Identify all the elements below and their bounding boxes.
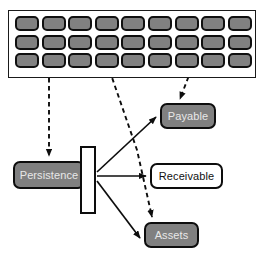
grid-cell[interactable]	[68, 35, 92, 50]
grid-cell[interactable]	[175, 53, 199, 68]
grid-cell[interactable]	[121, 35, 145, 50]
grid-cell[interactable]	[201, 35, 225, 50]
grid-cell[interactable]	[175, 35, 199, 50]
node-assets-label: Assets	[155, 229, 189, 241]
grid-cell[interactable]	[148, 16, 172, 31]
grid-cell[interactable]	[15, 35, 39, 50]
grid-cell[interactable]	[228, 53, 252, 68]
connector-gate-to-assets	[97, 181, 140, 238]
grid-cell[interactable]	[68, 53, 92, 68]
node-payable-label: Payable	[168, 110, 208, 122]
grid-cell[interactable]	[201, 53, 225, 68]
grid-cell[interactable]	[95, 53, 119, 68]
diagram-canvas: Persistence Payable Receivable Assets	[0, 0, 264, 261]
grid-cell[interactable]	[121, 16, 145, 31]
grid-cell[interactable]	[42, 35, 66, 50]
connector-gate-to-payable	[97, 117, 156, 172]
node-persistence-label: Persistence	[20, 169, 79, 181]
node-receivable-label: Receivable	[159, 170, 214, 182]
connector-grid-to-assets	[107, 63, 152, 217]
gate-bar[interactable]	[80, 146, 96, 214]
grid-cell[interactable]	[42, 53, 66, 68]
grid-cell[interactable]	[201, 16, 225, 31]
node-receivable[interactable]: Receivable	[150, 163, 223, 189]
grid-cell-container	[15, 16, 252, 68]
grid-cell[interactable]	[68, 16, 92, 31]
node-assets[interactable]: Assets	[144, 222, 199, 248]
grid-cell[interactable]	[15, 53, 39, 68]
grid-cell[interactable]	[148, 35, 172, 50]
grid-cell[interactable]	[95, 16, 119, 31]
grid-cell[interactable]	[148, 53, 172, 68]
node-payable[interactable]: Payable	[160, 103, 216, 129]
grid-cell[interactable]	[42, 16, 66, 31]
grid-cell[interactable]	[95, 35, 119, 50]
node-persistence[interactable]: Persistence	[13, 161, 85, 189]
grid-panel	[8, 10, 256, 78]
grid-cell[interactable]	[228, 16, 252, 31]
grid-cell[interactable]	[228, 35, 252, 50]
grid-cell[interactable]	[175, 16, 199, 31]
grid-cell[interactable]	[121, 53, 145, 68]
grid-cell[interactable]	[15, 16, 39, 31]
